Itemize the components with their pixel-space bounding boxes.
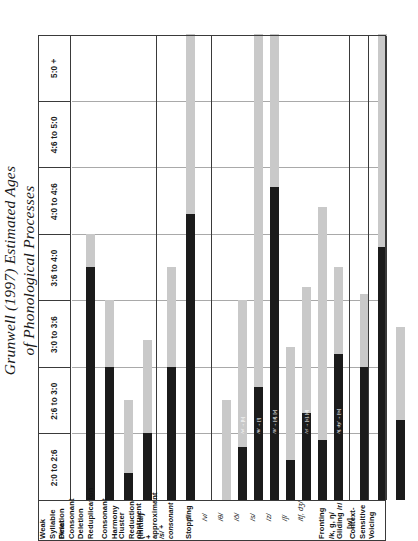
process-label-7: /s/ + consonant xyxy=(159,501,172,541)
plot-area: /v/ → [b]/θ/ → [f]/ð/ → [d], [v]/z/ → [s… xyxy=(38,35,386,501)
process-label-16: /tʃ, dʒ/ xyxy=(294,501,307,541)
process-label-text: Consonant Harmony xyxy=(100,498,119,539)
process-label-text: /ʃ/ xyxy=(280,515,289,521)
group-separator xyxy=(211,36,212,500)
bar-0 xyxy=(86,234,95,500)
bar-8: /θ/ → [f] xyxy=(254,34,263,500)
bar-6 xyxy=(222,400,231,500)
bar-annotation: /ð/ → [d], [v] xyxy=(270,410,279,434)
process-label-13: /s/ xyxy=(246,501,259,541)
bar-dark-segment xyxy=(396,420,405,500)
bar-annotation: /tʃ, dʒ/ → [ts] xyxy=(334,409,343,434)
process-label-text: /z/ xyxy=(264,513,273,521)
figure: Grunwell (1997) Estimated Ages of Phonol… xyxy=(0,0,418,541)
chart-title-line2: of Phonological Processes xyxy=(19,0,38,541)
group-separator xyxy=(386,36,387,500)
process-label-text: Fronting /k, g, ŋ/ xyxy=(317,501,336,539)
bar-3 xyxy=(143,340,152,500)
process-label-11: /θ/ xyxy=(214,501,227,541)
process-label-text: /s/ xyxy=(248,513,257,521)
chart-title: Grunwell (1997) Estimated Ages of Phonol… xyxy=(0,0,38,541)
bar-annotation: /v/ → [b] xyxy=(238,417,247,433)
group-separator xyxy=(349,36,350,500)
process-label-text: /v/ xyxy=(200,513,209,521)
bar-dark-segment xyxy=(238,447,247,500)
bar-dark-segment xyxy=(143,433,152,500)
process-label-15: /ʃ/ xyxy=(278,501,291,541)
bar-dark-segment xyxy=(167,367,176,500)
process-label-text: Reduplication xyxy=(86,487,95,539)
bar-11: /z/ → [s], [d] xyxy=(302,287,311,500)
bar-dark-segment xyxy=(254,387,263,500)
bar-9: /ð/ → [d], [v] xyxy=(270,34,279,500)
bar-10 xyxy=(286,347,295,500)
bar-5 xyxy=(186,34,195,500)
bar-2 xyxy=(124,400,133,500)
process-label-text: /s/ + consonant xyxy=(157,501,175,539)
bar-7: /v/ → [b] xyxy=(238,300,247,500)
bar-4 xyxy=(167,267,176,500)
bar-dark-segment xyxy=(105,367,114,500)
process-label-19: Context-Sensitive Voicing xyxy=(356,501,369,541)
bar-dark-segment xyxy=(186,214,195,500)
group-separator xyxy=(156,36,157,500)
bar-annotation: /z/ → [s], [d] xyxy=(302,410,311,433)
bar-dark-segment xyxy=(124,473,133,500)
bar-dark-segment xyxy=(86,267,95,500)
bar-dark-segment xyxy=(318,440,327,500)
process-label-12: /ð/ xyxy=(230,501,243,541)
process-label-2: Reduplication xyxy=(84,501,97,541)
bar-dark-segment xyxy=(270,187,279,500)
process-label-text: /θ/ xyxy=(216,513,225,521)
process-label-text: /ð/ xyxy=(232,513,241,521)
process-label-column: Weak Syllable DeletionFinal Consonant De… xyxy=(38,501,386,541)
rotated-figure-wrapper: Grunwell (1997) Estimated Ages of Phonol… xyxy=(0,0,418,541)
process-label-9: /f/ xyxy=(182,501,195,541)
process-label-17: Fronting /k, g, ŋ/ xyxy=(320,501,333,541)
process-label-text: Context-Sensitive Voicing xyxy=(348,501,376,539)
process-label-1: Final Consonant Deletion xyxy=(65,501,78,541)
bar-1 xyxy=(105,300,114,500)
chart-title-line1: Grunwell (1997) Estimated Ages xyxy=(0,0,19,541)
gridline-vertical xyxy=(72,234,385,235)
process-label-text: /f/ xyxy=(184,515,193,521)
bar-12 xyxy=(318,207,327,500)
group-separator xyxy=(368,36,369,500)
process-label-10: /v/ xyxy=(198,501,211,541)
gridline-vertical xyxy=(72,101,385,102)
process-label-text: Final Consonant Deletion xyxy=(57,498,85,539)
bar-16 xyxy=(396,327,405,500)
process-label-14: /z/ xyxy=(262,501,275,541)
gridline-vertical xyxy=(72,167,385,168)
process-label-3: Consonant Harmony xyxy=(103,501,116,541)
bar-dark-segment xyxy=(286,460,295,500)
bar-13: /tʃ, dʒ/ → [ts] xyxy=(334,267,343,500)
label-column-separator xyxy=(38,500,386,501)
bar-annotation: /θ/ → [f] xyxy=(254,418,263,433)
process-label-text: /tʃ, dʒ/ xyxy=(296,501,305,521)
